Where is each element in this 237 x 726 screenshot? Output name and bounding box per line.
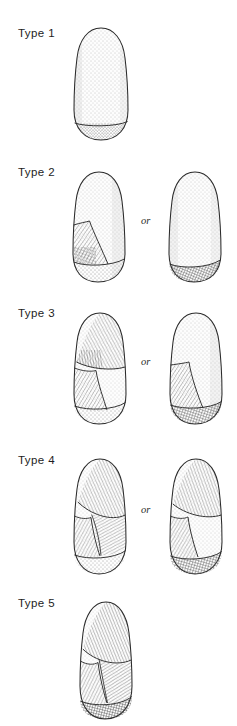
specimen-type3-variant-a bbox=[62, 310, 138, 428]
type-label-5: Type 5 bbox=[18, 597, 55, 609]
type-row-1: Type 1 bbox=[0, 0, 237, 160]
specimen-type5-variant-a bbox=[68, 599, 144, 723]
type-label-3: Type 3 bbox=[18, 307, 55, 319]
specimen-type4-variant-b bbox=[158, 456, 234, 578]
or-separator-2: or bbox=[141, 215, 150, 226]
or-separator-3: or bbox=[141, 356, 150, 367]
specimen-type4-variant-a bbox=[62, 456, 138, 578]
type-row-2: Type 2 or bbox=[0, 152, 237, 297]
specimen-type2-variant-b bbox=[158, 169, 232, 286]
or-separator-4: or bbox=[141, 504, 150, 515]
type-label-2: Type 2 bbox=[18, 166, 55, 178]
type-label-1: Type 1 bbox=[18, 27, 55, 39]
type-label-4: Type 4 bbox=[18, 454, 55, 466]
type-row-5: Type 5 bbox=[0, 580, 237, 726]
specimen-type3-variant-b bbox=[158, 310, 234, 428]
specimen-type2-variant-a bbox=[62, 169, 136, 286]
specimen-type1-variant-a bbox=[62, 24, 140, 150]
type-row-3: Type 3 or bbox=[0, 292, 237, 437]
artifact-typology-figure: Type 1 bbox=[0, 0, 237, 726]
type-row-4: Type 4 or bbox=[0, 432, 237, 584]
